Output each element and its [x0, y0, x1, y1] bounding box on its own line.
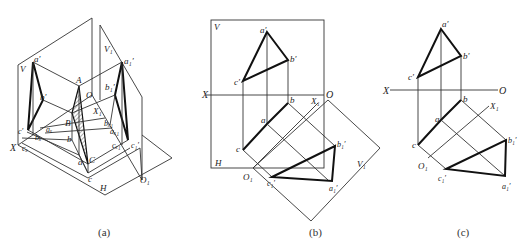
h-plane-edge	[18, 135, 172, 195]
label-H: H	[214, 158, 222, 168]
label-c-prime: c′	[18, 127, 24, 136]
caption-c: (c)	[457, 226, 469, 238]
label-a: a	[261, 115, 266, 125]
label-a-prime: a′	[442, 19, 450, 29]
label-a1-prime: a₁′	[124, 56, 135, 66]
label-X: X	[201, 89, 209, 100]
panel-c-diagram: a′ b′ c′ X O b X₁ a c O₁ c₁′ b₁′ a₁′	[382, 19, 517, 191]
panel-b-diagram: V a′ b′ c′ X O b X₁ a c H O₁ c₁′ b₁′ a₁′…	[201, 20, 380, 221]
label-c-prime: c′	[234, 77, 241, 87]
label-V: V	[214, 22, 221, 32]
label-O1: O₁	[140, 175, 150, 185]
label-V1: V₁	[357, 159, 366, 169]
panel-a-diagram: V V₁ a′ a₁′ A O b′ b₁′ X₁ B c′ aₓ bₓ b b…	[9, 18, 172, 195]
label-b1-prime: b₁′	[508, 136, 517, 145]
label-H: H	[99, 183, 107, 193]
label-A: A	[75, 75, 82, 85]
triangle-v-projection	[418, 29, 461, 77]
label-O1: O₁	[243, 172, 253, 182]
caption-a: (a)	[98, 226, 110, 238]
caption-b: (b)	[309, 226, 322, 238]
label-X1: X₁	[489, 101, 499, 111]
label-O: O	[499, 85, 506, 96]
label-b: b	[290, 95, 295, 105]
label-X1: X₁	[92, 106, 102, 116]
label-O: O	[326, 89, 333, 100]
triangle-v-projection	[243, 32, 288, 81]
label-b1-prime: b₁′	[105, 82, 116, 92]
triangle-v1-projection	[446, 140, 506, 176]
label-O: O	[86, 90, 93, 100]
label-b: b	[463, 94, 468, 104]
label-b-prime: b′	[463, 51, 471, 61]
label-c1-prime: c₁′	[267, 179, 275, 188]
label-V: V	[20, 64, 27, 74]
line-abc-h-projection	[418, 100, 461, 145]
label-a: a	[78, 157, 83, 167]
label-ax: aₓ	[46, 125, 52, 134]
label-X: X	[9, 142, 17, 153]
label-a1-prime: a₁′	[329, 184, 338, 193]
label-cx: cₓ	[22, 144, 28, 153]
label-b-prime: b′	[290, 54, 298, 64]
label-b-prime: b′	[40, 92, 48, 102]
label-a1-prime: a₁′	[502, 182, 511, 191]
label-b1-prime: b₁′	[337, 140, 346, 149]
triangle-v1-projection	[272, 146, 335, 181]
label-X1: X₁	[310, 96, 320, 106]
label-B: B	[65, 118, 71, 128]
label-C: C	[89, 155, 96, 165]
label-c1-prime: c₁′	[131, 141, 139, 150]
label-ax1: aₓ₁	[110, 127, 119, 136]
projection-figure: V V₁ a′ a₁′ A O b′ b₁′ X₁ B c′ aₓ bₓ b b…	[0, 0, 519, 246]
label-c: c	[412, 140, 416, 150]
label-b: b	[67, 134, 72, 144]
label-X: X	[382, 85, 390, 96]
label-c: c	[236, 144, 240, 154]
label-O1: O₁	[418, 161, 428, 171]
label-a: a	[435, 114, 440, 124]
label-V1: V₁	[104, 44, 113, 54]
label-cx1: cₓ₁	[112, 141, 121, 150]
label-c-prime: c′	[408, 72, 415, 82]
label-c: c	[88, 174, 92, 184]
label-a-prime: a′	[34, 54, 42, 64]
label-a-prime: a′	[260, 25, 268, 35]
vh-frame	[211, 20, 324, 168]
label-bx: bₓ	[35, 133, 41, 142]
label-c1-prime: c₁′	[438, 174, 446, 183]
